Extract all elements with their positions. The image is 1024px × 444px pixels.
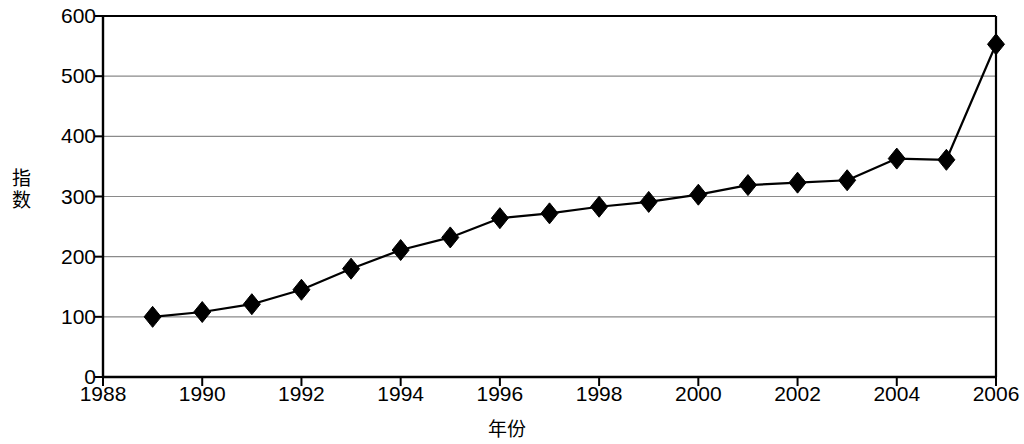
x-tick-label: 1994 xyxy=(356,383,446,405)
data-point-marker xyxy=(888,148,905,169)
x-tick-label: 1992 xyxy=(256,383,346,405)
data-point-marker xyxy=(194,302,211,323)
data-point-marker xyxy=(690,184,707,205)
data-point-marker xyxy=(442,227,459,248)
data-point-marker xyxy=(343,258,360,279)
y-tick-label: 400 xyxy=(40,125,96,146)
x-tick-label: 1998 xyxy=(554,383,644,405)
data-line xyxy=(153,44,996,317)
data-point-marker xyxy=(293,279,310,300)
data-point-marker xyxy=(938,149,955,170)
y-axis-tick-labels: 0100200300400500600 xyxy=(34,0,96,444)
y-tick-label: 200 xyxy=(40,246,96,267)
data-point-marker xyxy=(243,294,260,315)
x-tick-label: 1990 xyxy=(157,383,247,405)
data-point-marker xyxy=(541,203,558,224)
gridlines-group xyxy=(103,76,996,317)
data-point-marker xyxy=(491,208,508,229)
y-tick-label: 500 xyxy=(40,65,96,86)
x-tick-label: 2006 xyxy=(951,383,1024,405)
data-point-marker xyxy=(839,170,856,191)
x-axis-title: 年份 xyxy=(0,418,1014,442)
x-tick-label: 1996 xyxy=(455,383,545,405)
x-tick-label: 1988 xyxy=(58,383,148,405)
data-point-marker xyxy=(392,240,409,261)
data-markers-group xyxy=(144,34,1004,328)
data-point-marker xyxy=(640,191,657,212)
series-line xyxy=(153,44,996,317)
data-point-marker xyxy=(988,34,1005,55)
data-point-marker xyxy=(591,196,608,217)
data-point-marker xyxy=(739,175,756,196)
y-tick-label: 600 xyxy=(40,5,96,26)
y-axis-title: 指 数 xyxy=(6,168,36,212)
x-tick-label: 2004 xyxy=(852,383,942,405)
data-point-marker xyxy=(789,172,806,193)
data-point-marker xyxy=(144,306,161,327)
x-tick-label: 2002 xyxy=(753,383,843,405)
y-tick-label: 300 xyxy=(40,186,96,207)
y-tick-label: 100 xyxy=(40,306,96,327)
x-tick-label: 2000 xyxy=(653,383,743,405)
